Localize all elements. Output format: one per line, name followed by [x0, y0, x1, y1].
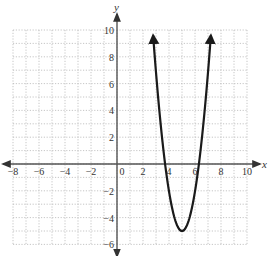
y-tick-label: 10	[104, 25, 114, 36]
coordinate-graph: x y −8−6−4−20246810−6−4−2246810	[0, 0, 271, 256]
x-tick-label: 10	[242, 166, 252, 177]
y-tick-label: 4	[109, 105, 114, 116]
axes: x y	[3, 1, 267, 256]
y-tick-label: 8	[109, 52, 114, 63]
x-tick-label: 2	[141, 166, 146, 177]
y-tick-label: −2	[103, 186, 114, 197]
x-tick-label: −4	[60, 166, 71, 177]
x-tick-label: −2	[86, 166, 97, 177]
y-axis-label: y	[113, 1, 119, 13]
x-tick-label: −8	[8, 166, 19, 177]
x-tick-label: −6	[34, 166, 45, 177]
grid-lines	[13, 30, 247, 244]
x-tick-label: 0	[120, 166, 125, 177]
y-tick-label: 6	[109, 79, 114, 90]
y-tick-label: −6	[103, 239, 114, 250]
x-tick-label: 8	[219, 166, 224, 177]
x-axis-label: x	[261, 158, 267, 170]
y-tick-label: −4	[103, 213, 114, 224]
y-tick-label: 2	[109, 132, 114, 143]
